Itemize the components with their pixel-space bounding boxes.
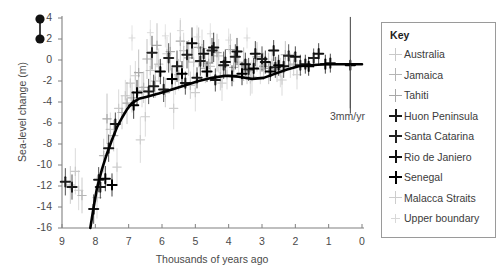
plus-marker-icon — [388, 88, 403, 103]
legend-item-senegal[interactable]: Senegal — [388, 167, 491, 188]
x-axis-tick-label: 5 — [185, 235, 205, 247]
y-axis-tick-label: -6 — [26, 116, 52, 128]
plus-marker-icon — [388, 170, 403, 185]
legend-item-santa-catarina[interactable]: Santa Catarina — [388, 126, 491, 147]
y-axis-tick-label: -12 — [26, 179, 52, 191]
y-axis-tick-label: -4 — [26, 95, 52, 107]
legend-title: Key — [390, 29, 491, 41]
y-axis-tick-label: -10 — [26, 158, 52, 170]
y-axis-tick-label: 2 — [26, 32, 52, 44]
plus-marker-icon — [388, 129, 403, 144]
legend-item-label: Tahiti — [404, 90, 429, 101]
legend-item-label: Malacca Straits — [404, 193, 476, 204]
plus-marker-icon — [388, 149, 403, 164]
y-axis-tick-label: 4 — [26, 11, 52, 23]
series-senegal — [101, 17, 355, 197]
plus-marker-icon — [388, 190, 403, 205]
series-rio-de-janiero — [187, 27, 335, 77]
legend-item-rio-de-janiero[interactable]: Rio de Janiero — [388, 147, 491, 168]
x-axis-tick-label: 6 — [152, 235, 172, 247]
legend-item-label: Rio de Janiero — [404, 152, 472, 163]
legend-item-australia[interactable]: Australia — [388, 44, 491, 65]
sea-level-chart-figure: 420-2-4-6-8-10-12-14-169876543210 Sea-le… — [0, 0, 500, 274]
x-axis-tick-label: 1 — [319, 235, 339, 247]
x-axis-tick-label: 8 — [85, 235, 105, 247]
x-axis-tick-label: 9 — [52, 235, 72, 247]
y-axis-title: Sea-level change (m) — [16, 42, 28, 182]
legend-item-label: Santa Catarina — [404, 131, 474, 142]
legend-item-jamaica[interactable]: Jamaica — [388, 65, 491, 86]
x-axis-tick-label: 0 — [352, 235, 372, 247]
y-axis-tick-label: 0 — [26, 53, 52, 65]
legend-item-label: Huon Peninsula — [404, 111, 478, 122]
x-axis-tick-label: 7 — [119, 235, 139, 247]
series-huon-peninsula — [61, 65, 237, 224]
legend-item-malacca-straits[interactable]: Malacca Straits — [388, 188, 491, 209]
plus-marker-icon — [388, 211, 403, 226]
plus-marker-icon — [388, 108, 403, 123]
legend-item-list: AustraliaJamaicaTahitiHuon PeninsulaSant… — [388, 44, 491, 229]
x-axis-tick-label: 2 — [285, 235, 305, 247]
legend-item-huon-peninsula[interactable]: Huon Peninsula — [388, 106, 491, 127]
chart-legend: Key AustraliaJamaicaTahitiHuon Peninsula… — [381, 22, 496, 238]
y-axis-tick-label: -2 — [26, 74, 52, 86]
plus-marker-icon — [388, 67, 403, 82]
plus-marker-icon — [388, 47, 403, 62]
legend-item-tahiti[interactable]: Tahiti — [388, 85, 491, 106]
legend-item-label: Upper boundary — [404, 213, 479, 224]
x-axis-tick-label: 4 — [219, 235, 239, 247]
x-axis-tick-label: 3 — [252, 235, 272, 247]
legend-item-label: Australia — [404, 49, 445, 60]
y-axis-tick-label: -8 — [26, 137, 52, 149]
rate-annotation-label: 3mm/yr — [330, 110, 365, 122]
legend-item-upper-boundary[interactable]: Upper boundary — [388, 208, 491, 229]
x-axis-title: Thousands of years ago — [62, 253, 362, 265]
y-axis-tick-label: -16 — [26, 221, 52, 233]
y-axis-tick-label: -14 — [26, 200, 52, 212]
legend-item-label: Senegal — [404, 172, 443, 183]
legend-item-label: Jamaica — [404, 70, 443, 81]
mean-sea-level-curve — [90, 64, 362, 228]
